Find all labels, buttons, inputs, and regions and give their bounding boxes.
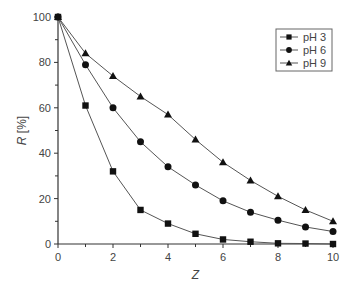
circle-marker-icon [110, 104, 117, 111]
square-marker-icon [137, 207, 143, 213]
x-tick-label: 4 [165, 251, 171, 263]
y-tick-label: 80 [39, 56, 51, 68]
square-marker-icon [192, 231, 198, 237]
x-tick-label: 8 [275, 251, 281, 263]
square-marker-icon [330, 241, 336, 247]
chart-canvas: 0246810020406080100ZR [%]pH 3pH 6pH 9 [0, 0, 358, 292]
circle-marker-icon [220, 197, 227, 204]
circle-marker-icon [275, 217, 282, 224]
circle-marker-icon [82, 61, 89, 68]
circle-marker-icon [137, 138, 144, 145]
y-axis-title: R [%] [15, 116, 29, 145]
square-marker-icon [302, 240, 308, 246]
square-marker-icon [82, 102, 88, 108]
triangle-marker-icon [137, 92, 145, 99]
square-marker-icon [165, 220, 171, 226]
legend-label: pH 6 [303, 44, 326, 56]
x-tick-label: 6 [220, 251, 226, 263]
y-tick-label: 40 [39, 147, 51, 159]
circle-marker-icon [286, 47, 292, 53]
circle-marker-icon [247, 209, 254, 216]
circle-marker-icon [192, 181, 199, 188]
square-marker-icon [110, 168, 116, 174]
square-marker-icon [275, 240, 281, 246]
legend-label: pH 3 [303, 31, 326, 43]
y-tick-label: 0 [45, 238, 51, 250]
square-marker-icon [247, 239, 253, 245]
y-tick-label: 20 [39, 193, 51, 205]
x-tick-label: 10 [327, 251, 339, 263]
square-marker-icon [220, 236, 226, 242]
line-chart: 0246810020406080100ZR [%]pH 3pH 6pH 9 [0, 0, 358, 292]
square-marker-icon [286, 34, 291, 39]
triangle-marker-icon [302, 206, 310, 213]
triangle-marker-icon [164, 111, 172, 118]
y-tick-label: 100 [33, 11, 51, 23]
x-axis-title: Z [191, 268, 200, 282]
triangle-marker-icon [274, 192, 282, 199]
circle-marker-icon [165, 163, 172, 170]
x-tick-label: 2 [110, 251, 116, 263]
y-tick-label: 60 [39, 102, 51, 114]
x-tick-label: 0 [55, 251, 61, 263]
triangle-marker-icon [247, 176, 255, 183]
legend: pH 3pH 6pH 9 [276, 29, 332, 71]
circle-marker-icon [302, 223, 309, 230]
legend-label: pH 9 [303, 57, 326, 69]
circle-marker-icon [330, 228, 337, 235]
triangle-marker-icon [329, 217, 337, 224]
